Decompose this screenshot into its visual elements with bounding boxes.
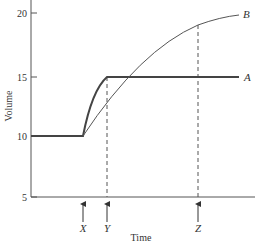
y-tick-label-5: 5 bbox=[22, 192, 27, 203]
marker-z-label: Z bbox=[195, 222, 202, 234]
marker-x-label: X bbox=[79, 222, 88, 234]
y-tick-label-10: 10 bbox=[17, 131, 27, 142]
x-axis-title: Time bbox=[131, 232, 152, 243]
series-a-label: A bbox=[243, 71, 251, 83]
series-b-label: B bbox=[243, 8, 250, 20]
y-tick-label-20: 20 bbox=[17, 8, 27, 19]
chart: 20 15 10 5 Volume A B X Y Z Time bbox=[0, 0, 255, 243]
series-b-line bbox=[83, 15, 239, 136]
y-axis-title: Volume bbox=[3, 90, 14, 121]
y-tick-label-15: 15 bbox=[17, 72, 27, 83]
series-a-line bbox=[31, 77, 239, 136]
marker-y-label: Y bbox=[104, 222, 112, 234]
